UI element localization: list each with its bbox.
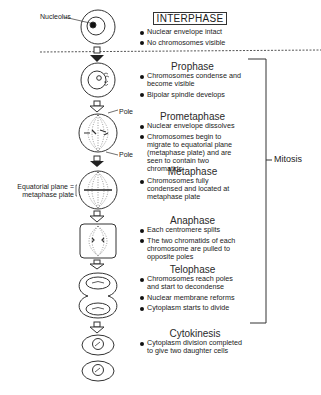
nucleolus-label: Nucleolus bbox=[40, 13, 71, 21]
arrow-down-icon bbox=[90, 47, 104, 62]
stage-metaphase: Metaphase Chromosomes fully condensed an… bbox=[140, 166, 245, 204]
bullet: Cytoplasm starts to divide bbox=[140, 304, 245, 312]
bullet: Each centromere splits bbox=[140, 226, 245, 234]
bullet: Cytoplasm division completed to give two… bbox=[140, 339, 250, 355]
arrow-down-icon bbox=[90, 322, 104, 333]
bullet: Chromosomes reach poles and start to dec… bbox=[140, 275, 245, 291]
arrow-down-icon bbox=[90, 101, 104, 112]
telophase-cell-icon bbox=[79, 273, 117, 318]
stage-telophase: Telophase Chromosomes reach poles and st… bbox=[140, 264, 245, 315]
anaphase-cell-icon bbox=[80, 224, 116, 258]
metaphase-cell-icon bbox=[76, 171, 117, 209]
bullet: No chromosomes visible bbox=[140, 39, 240, 47]
equatorial-plane-line2: metaphase plate bbox=[16, 191, 74, 199]
bullet: Nuclear envelope intact bbox=[140, 28, 240, 36]
interphase-separator bbox=[40, 50, 321, 52]
mitosis-bracket bbox=[248, 59, 272, 323]
stage-bullets: Chromosomes fully condensed and located … bbox=[140, 177, 245, 201]
stage-anaphase: Anaphase Each centromere splits The two … bbox=[140, 215, 245, 263]
bullet: Chromosomes condense and become visible bbox=[140, 72, 245, 88]
stage-cytokinesis: Cytokinesis Cytoplasm division completed… bbox=[140, 328, 250, 358]
stage-title: INTERPHASE bbox=[153, 12, 228, 25]
bullet: The two chromatids of each chromosome ar… bbox=[140, 237, 245, 261]
equatorial-plane-label: Equatorial plane = metaphase plate bbox=[16, 183, 74, 199]
stage-bullets: Nuclear envelope intact No chromosomes v… bbox=[140, 28, 240, 47]
stage-bullets: Cytoplasm division completed to give two… bbox=[140, 339, 250, 355]
bullet: Bipolar spindle develops bbox=[140, 91, 245, 99]
daughter-cell-icon bbox=[82, 361, 114, 381]
stage-interphase: INTERPHASE Nuclear envelope intact No ch… bbox=[140, 8, 240, 49]
equatorial-plane-line1: Equatorial plane = bbox=[16, 183, 74, 191]
arrow-down-icon bbox=[90, 156, 104, 167]
bullet: Nuclear membrane reforms bbox=[140, 294, 245, 302]
stage-bullets: Nuclear envelope dissolves Chromosomes b… bbox=[140, 122, 245, 173]
daughter-cell-icon bbox=[82, 335, 114, 355]
pole-top-label: Pole bbox=[119, 108, 133, 116]
arrow-down-icon bbox=[90, 211, 104, 222]
stage-bullets: Chromosomes condense and become visible … bbox=[140, 72, 245, 99]
mitosis-label: Mitosis bbox=[274, 154, 302, 164]
arrow-down-icon bbox=[90, 260, 104, 269]
stage-bullets: Chromosomes reach poles and start to dec… bbox=[140, 275, 245, 312]
bullet: Nuclear envelope dissolves bbox=[140, 122, 245, 130]
interphase-cell-icon bbox=[64, 10, 115, 44]
stage-bullets: Each centromere splits The two chromatid… bbox=[140, 226, 245, 261]
prometaphase-cell-icon bbox=[79, 110, 118, 155]
pole-bottom-label: Pole bbox=[119, 151, 133, 159]
prophase-cell-icon bbox=[81, 63, 115, 97]
bullet: Chromosomes fully condensed and located … bbox=[140, 177, 245, 201]
stage-prophase: Prophase Chromosomes condense and become… bbox=[140, 61, 245, 101]
